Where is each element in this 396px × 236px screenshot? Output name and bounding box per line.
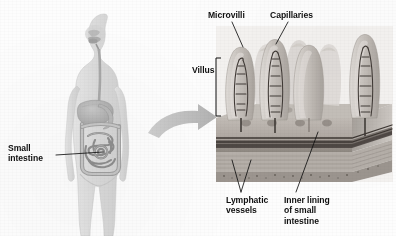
leader-lymphatic-b	[232, 160, 241, 192]
label-lymphatic-vessels: Lymphatic vessels	[226, 195, 268, 216]
leader-lines	[0, 0, 396, 236]
label-capillaries: Capillaries	[270, 10, 313, 20]
figure-canvas: Small intestine Microvilli Capillaries V…	[0, 0, 396, 236]
label-microvilli: Microvilli	[208, 10, 245, 20]
leader-microvilli	[232, 22, 243, 47]
leader-inner-lining	[296, 132, 318, 192]
label-small-intestine: Small intestine	[8, 143, 43, 164]
leader-lymphatic-a	[241, 160, 251, 192]
label-villus: Villus	[192, 65, 214, 75]
leader-small-intestine	[56, 152, 103, 155]
leader-capillaries	[276, 22, 288, 44]
villus-bracket	[216, 58, 221, 116]
label-inner-lining: Inner lining of small intestine	[284, 195, 330, 226]
